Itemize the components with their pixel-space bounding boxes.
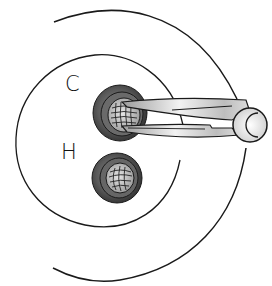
- label-c: C: [65, 74, 80, 95]
- outer-boundary-arc: [53, 11, 246, 282]
- inner-boundary-circle: [16, 55, 183, 227]
- label-h: H: [61, 142, 77, 163]
- hinge-icon: [233, 108, 267, 142]
- ring-h: [92, 153, 142, 203]
- diagram-canvas: [0, 0, 272, 286]
